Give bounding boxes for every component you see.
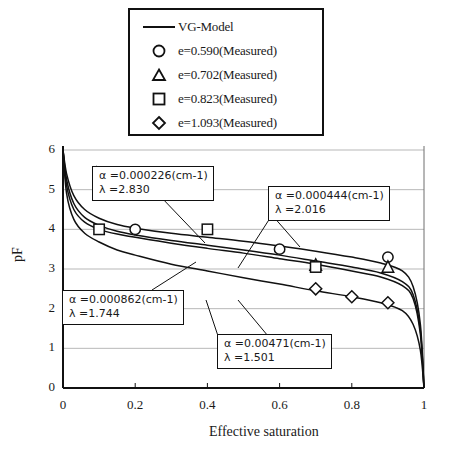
x-tick-label: 1 (414, 397, 434, 413)
legend-label: VG-Model (178, 19, 233, 35)
annotation-lambda: λ =1.744 (69, 307, 178, 321)
x-tick-label: 0.2 (125, 397, 145, 413)
annotation-alpha: α =0.000226(cm-1) (99, 169, 208, 182)
legend-item-vg-model: VG-Model (140, 15, 316, 39)
circle-icon (140, 43, 178, 59)
annotation-lambda: λ =2.016 (275, 203, 384, 217)
x-tick-label: 0.4 (197, 397, 217, 413)
triangle-icon (140, 67, 178, 83)
annotation-box-4: α =0.00471(cm-1) λ =1.501 (217, 334, 332, 369)
y-axis-title: pF (10, 247, 26, 262)
annotation-box-1: α =0.000226(cm-1) λ =2.830 (92, 166, 214, 201)
y-tick-label: 1 (39, 339, 55, 355)
chart-figure: VG-Model e=0.590(Measured) e=0.702(Measu… (0, 0, 457, 459)
annotation-box-3: α =0.000862(cm-1) λ =1.744 (62, 290, 184, 325)
annotation-alpha: α =0.000862(cm-1) (69, 293, 178, 306)
annotation-lambda: λ =2.830 (99, 183, 208, 197)
legend-item-e0590: e=0.590(Measured) (140, 39, 316, 63)
y-tick-label: 2 (39, 300, 55, 316)
legend-label: e=0.702(Measured) (178, 67, 277, 83)
annotation-box-2: α =0.000444(cm-1) λ =2.016 (268, 186, 390, 221)
x-tick-label: 0.8 (342, 397, 362, 413)
legend-item-e0702: e=0.702(Measured) (140, 63, 316, 87)
x-tick-label: 0.6 (270, 397, 290, 413)
legend-label: e=0.823(Measured) (178, 91, 277, 107)
legend-item-e0823: e=0.823(Measured) (140, 87, 316, 111)
line-swatch-icon (140, 22, 178, 32)
y-tick-label: 5 (39, 181, 55, 197)
square-icon (140, 91, 178, 107)
y-tick-label: 3 (39, 260, 55, 276)
legend-label: e=0.590(Measured) (178, 43, 277, 59)
y-tick-label: 4 (39, 220, 55, 236)
y-tick-label: 0 (39, 379, 55, 395)
annotation-lambda: λ =1.501 (224, 351, 326, 365)
x-axis-title: Effective saturation (209, 424, 319, 440)
legend-item-e1093: e=1.093(Measured) (140, 111, 316, 135)
diamond-icon (140, 115, 178, 131)
annotation-alpha: α =0.00471(cm-1) (224, 337, 326, 350)
legend: VG-Model e=0.590(Measured) e=0.702(Measu… (128, 8, 324, 136)
x-tick-label: 0 (53, 397, 73, 413)
legend-label: e=1.093(Measured) (178, 115, 277, 131)
annotation-alpha: α =0.000444(cm-1) (275, 189, 384, 202)
y-tick-label: 6 (39, 141, 55, 157)
